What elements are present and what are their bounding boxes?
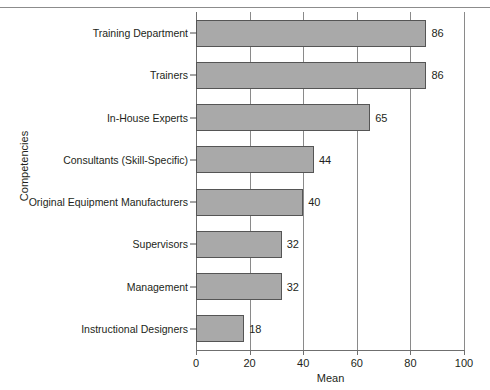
bar-row: 32	[196, 231, 464, 258]
category-label: Original Equipment Manufacturers	[29, 196, 188, 208]
y-tick	[190, 75, 197, 76]
bar-value-label: 18	[249, 323, 261, 335]
bar-row: 18	[196, 315, 464, 342]
x-tick-60	[357, 350, 358, 355]
bar-chart-figure: Competencies Training DepartmentTrainers…	[0, 0, 490, 390]
bar	[196, 104, 370, 131]
y-tick	[190, 117, 197, 118]
y-tick	[190, 33, 197, 34]
category-label: Consultants (Skill-Specific)	[63, 154, 188, 166]
bar-row: 44	[196, 146, 464, 173]
bar-value-label: 32	[287, 238, 299, 250]
bar-value-label: 40	[308, 196, 320, 208]
bar	[196, 20, 426, 47]
y-tick	[190, 202, 197, 203]
y-tick	[190, 286, 197, 287]
x-tick-20	[250, 350, 251, 355]
x-tick-40	[303, 350, 304, 355]
bar	[196, 273, 282, 300]
bar	[196, 189, 303, 216]
x-tick-label-40: 40	[297, 357, 309, 369]
bar	[196, 315, 244, 342]
y-tick	[190, 244, 197, 245]
category-label: Trainers	[150, 69, 188, 81]
bar-value-label: 44	[319, 154, 331, 166]
y-tick	[190, 159, 197, 160]
x-tick-label-60: 60	[351, 357, 363, 369]
bar-value-label: 86	[431, 69, 443, 81]
x-tick-label-0: 0	[193, 357, 199, 369]
x-axis-title: Mean	[196, 372, 465, 384]
bar	[196, 231, 282, 258]
x-tick-80	[410, 350, 411, 355]
plot-area: 8686654440323218	[196, 12, 464, 350]
bar-row: 65	[196, 104, 464, 131]
bar	[196, 146, 314, 173]
bar-row: 40	[196, 189, 464, 216]
x-tick-label-100: 100	[455, 357, 473, 369]
bar-row: 86	[196, 62, 464, 89]
y-tick	[190, 328, 197, 329]
category-label: Supervisors	[133, 238, 188, 250]
category-label: Instructional Designers	[81, 323, 188, 335]
category-label: Training Department	[93, 27, 188, 39]
x-tick-label-80: 80	[404, 357, 416, 369]
x-tick-0	[196, 350, 197, 355]
category-label: Management	[127, 281, 188, 293]
category-label: In-House Experts	[107, 112, 188, 124]
x-axis-line	[196, 350, 465, 351]
bar-value-label: 65	[375, 112, 387, 124]
bar-row: 32	[196, 273, 464, 300]
category-labels: Training DepartmentTrainersIn-House Expe…	[0, 0, 188, 390]
bar-row: 86	[196, 20, 464, 47]
x-tick-100	[464, 350, 465, 355]
gridline-x-100	[464, 12, 465, 350]
bar-value-label: 86	[431, 27, 443, 39]
x-tick-label-20: 20	[243, 357, 255, 369]
bar-value-label: 32	[287, 281, 299, 293]
bar	[196, 62, 426, 89]
